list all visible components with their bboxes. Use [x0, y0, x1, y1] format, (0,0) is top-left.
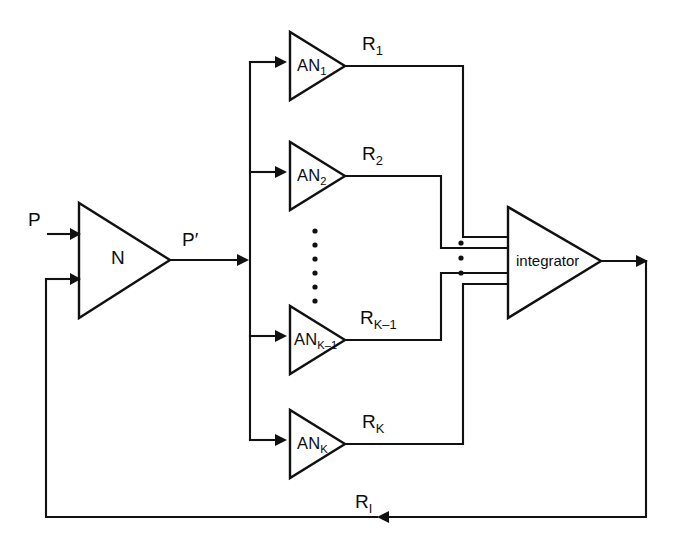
- label-r-1: R1: [362, 34, 383, 58]
- label-integrator: integrator: [516, 253, 579, 268]
- diagram-canvas: P P′ N integrator AN1 R1 AN2 R2 ANK–1 RK…: [0, 0, 685, 544]
- label-an-k-1: ANK–1: [294, 331, 337, 352]
- label-r-2-sub: 2: [376, 153, 383, 168]
- label-an-1: AN1: [297, 57, 327, 78]
- label-an-1-name: AN: [297, 56, 320, 74]
- label-network-n: N: [111, 248, 125, 267]
- label-feedback-r-sub: I: [369, 501, 373, 516]
- label-an-k-sub: K: [320, 443, 327, 455]
- label-r-1-sub: 1: [376, 43, 383, 58]
- branch-ellipsis-dots: [312, 228, 317, 303]
- label-r-k-name: R: [362, 411, 376, 432]
- integrator-ellipsis-dots: [458, 240, 463, 275]
- branch-k-1-input-wire: [250, 330, 287, 342]
- label-an-2: AN2: [297, 167, 327, 188]
- label-r-k: RK: [362, 412, 384, 436]
- wire-p-prime: [170, 254, 249, 266]
- label-r-1-name: R: [362, 33, 376, 54]
- label-r-2-name: R: [362, 143, 376, 164]
- label-r-k-1: RK–1: [360, 308, 397, 332]
- label-r-k-1-sub: K–1: [374, 317, 397, 332]
- label-an-k-1-name: AN: [294, 330, 317, 348]
- feedback-arrow-into-n: [46, 273, 81, 285]
- label-r-2: R2: [362, 144, 383, 168]
- label-r-k-1-name: R: [360, 307, 374, 328]
- label-r-k-sub: K: [376, 421, 385, 436]
- label-feedback-r-name: R: [355, 491, 369, 512]
- label-an-k: ANK: [297, 435, 328, 456]
- label-an-k-name: AN: [297, 434, 320, 452]
- label-an-k-1-sub: K–1: [317, 339, 337, 351]
- diagram-svg: [0, 0, 685, 544]
- branch-2-input-wire: [250, 166, 287, 178]
- label-an-2-sub: 2: [320, 175, 326, 187]
- label-an-1-sub: 1: [320, 65, 326, 77]
- label-feedback-r: RI: [355, 492, 372, 516]
- branch-k-input-wire: [250, 434, 287, 446]
- integrator-output-wire: [601, 255, 648, 267]
- feedback-loop-wire: [46, 261, 646, 523]
- label-an-2-name: AN: [297, 166, 320, 184]
- branch-1-input-wire: [250, 56, 287, 68]
- label-p-prime: P′: [182, 230, 198, 249]
- input-arrow-p: [48, 228, 81, 240]
- label-input-p: P: [28, 210, 41, 229]
